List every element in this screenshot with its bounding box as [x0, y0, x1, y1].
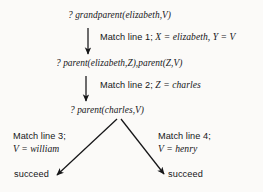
match-line-1-bindings: X = elizabeth, Y = V	[155, 31, 235, 42]
goal-node-grandparent: ? grandparent(elizabeth,V)	[68, 10, 171, 20]
match-line-2-bindings: Z = charles	[155, 79, 200, 90]
arrow-goal3-left-succeed	[57, 119, 117, 175]
edge-label-match-line-4: Match line 4; V = henry	[158, 130, 211, 155]
match-line-4-bindings: V = henry	[158, 143, 211, 156]
goal-node-parent-conjunction: ? parent(elizabeth,Z),parent(Z,V)	[56, 58, 182, 68]
match-line-1-rule: Match line 1;	[100, 32, 153, 42]
leaf-node-succeed-right: succeed	[168, 169, 203, 179]
match-line-3-bindings: V = william	[13, 143, 66, 156]
leaf-node-succeed-left: succeed	[14, 169, 49, 179]
goal-node-parent-charles: ? parent(charles,V)	[70, 105, 144, 115]
edge-label-match-line-1: Match line 1; X = elizabeth, Y = V	[100, 31, 235, 44]
match-line-3-rule: Match line 3;	[13, 130, 66, 143]
match-line-4-rule: Match line 4;	[158, 130, 211, 143]
diagram-canvas: ? grandparent(elizabeth,V) ? parent(eliz…	[0, 0, 263, 192]
arrow-layer	[0, 0, 263, 192]
edge-label-match-line-2: Match line 2; Z = charles	[100, 79, 201, 92]
edge-label-match-line-3: Match line 3; V = william	[13, 130, 66, 155]
match-line-2-rule: Match line 2;	[100, 80, 153, 90]
